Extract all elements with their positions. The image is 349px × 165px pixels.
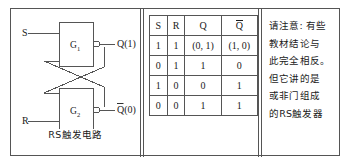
table-row: 1 0 0 1: [150, 76, 258, 96]
table-row: 0 0 1 1: [150, 96, 258, 116]
cell-q-bar: 1: [221, 96, 257, 116]
table-row: 1 1 (0, 1) (1, 0): [150, 36, 258, 56]
note-line: 但它讲的是: [269, 70, 341, 88]
cell-q: (0, 1): [185, 36, 221, 56]
truth-table-panel: S R Q Q 1 1 (0, 1) (1, 0): [143, 9, 258, 157]
note-line: 教材结论与: [269, 35, 341, 53]
cell-q: 1: [185, 96, 221, 116]
table-header-s: S: [150, 16, 168, 36]
cell-q-bar: (1, 0): [221, 36, 257, 56]
table-header-row: S R Q Q: [150, 16, 258, 36]
input-label-r: R: [22, 115, 29, 126]
cell-q-bar: 1: [221, 76, 257, 96]
svg-text:Q(0): Q(0): [117, 104, 136, 116]
note-line: 请注意: 有些: [269, 17, 341, 35]
rs-flip-flop-schematic: S R G1 G2 Q(1) Q(0): [11, 9, 140, 129]
cell-q-bar: 0: [221, 56, 257, 76]
gate-g2-bubble: [94, 107, 100, 113]
wire-cross-g1-to-g2: [44, 47, 104, 93]
panel-divider-right: [258, 9, 259, 157]
table-header-r: R: [167, 16, 185, 36]
cell-r: 0: [167, 76, 185, 96]
note-text-block: 请注意: 有些 教材结论与 此完全相反。 但它讲的是 或非门组成 的RS触发器: [269, 17, 341, 122]
note-panel: 请注意: 有些 教材结论与 此完全相反。 但它讲的是 或非门组成 的RS触发器: [261, 9, 339, 157]
circuit-panel: S R G1 G2 Q(1) Q(0) RS触发电路: [11, 9, 140, 157]
truth-table: S R Q Q 1 1 (0, 1) (1, 0): [149, 15, 258, 116]
panel-divider-left: [140, 9, 141, 157]
table-row: 0 1 1 0: [150, 56, 258, 76]
figure-rs-flip-flop: S R G1 G2 Q(1) Q(0) RS触发电路: [0, 0, 349, 165]
table-header-q-bar: Q: [221, 16, 257, 36]
cell-r: 1: [167, 36, 185, 56]
input-label-s: S: [22, 27, 28, 38]
gate-g1-bubble: [94, 41, 100, 47]
gate-label-g1: G1: [70, 40, 80, 52]
cell-s: 0: [150, 96, 168, 116]
cell-r: 0: [167, 96, 185, 116]
circuit-caption: RS触发电路: [11, 127, 140, 141]
cell-r: 1: [167, 56, 185, 76]
gate-label-g2: G2: [70, 106, 80, 118]
cell-s: 1: [150, 36, 168, 56]
note-line: 此完全相反。: [269, 52, 341, 70]
figure-outer-border: S R G1 G2 Q(1) Q(0) RS触发电路: [10, 8, 340, 156]
cell-q: 1: [185, 56, 221, 76]
output-label-q-bar: Q(0): [117, 104, 136, 117]
note-line: 的RS触发器: [269, 105, 341, 123]
note-line: 或非门组成: [269, 87, 341, 105]
wire-cross-g2-to-g1: [44, 61, 104, 107]
table-header-q: Q: [185, 16, 221, 36]
cell-s: 0: [150, 56, 168, 76]
output-label-q: Q(1): [117, 38, 136, 50]
cell-s: 1: [150, 76, 168, 96]
cell-q: 0: [185, 76, 221, 96]
